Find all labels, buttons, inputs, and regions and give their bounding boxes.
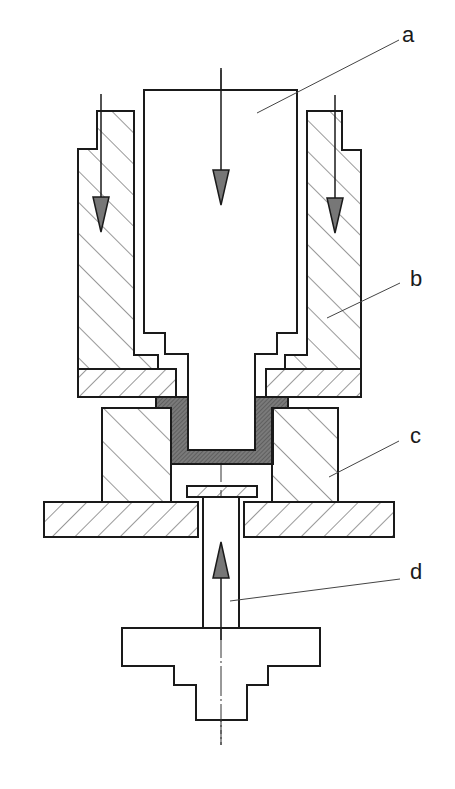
- left-base-plate: [44, 502, 198, 537]
- ejector-pad: [187, 486, 257, 497]
- label-b: b: [410, 268, 422, 290]
- leader-c: [329, 441, 399, 477]
- right-base-plate: [244, 502, 394, 537]
- left-holder-plate: [78, 369, 176, 397]
- leader-d: [230, 579, 400, 601]
- label-d: d: [410, 561, 422, 583]
- right-die-block: [272, 408, 338, 502]
- label-c: c: [410, 425, 421, 447]
- leader-a: [257, 40, 399, 113]
- forming-die-diagram: [0, 0, 455, 789]
- right-holder-plate: [266, 369, 361, 397]
- left-die-block: [102, 408, 171, 502]
- label-a: a: [402, 24, 414, 46]
